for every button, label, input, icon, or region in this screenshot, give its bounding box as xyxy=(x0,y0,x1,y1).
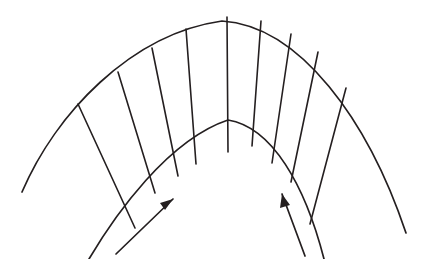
curved-duct-diagram xyxy=(0,0,434,259)
figure-container xyxy=(0,0,434,259)
radial-line-5 xyxy=(227,17,228,152)
canvas-background xyxy=(0,0,434,259)
